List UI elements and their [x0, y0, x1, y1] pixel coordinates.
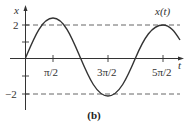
y-axis-label: x	[13, 4, 19, 16]
x-tick-label-2: 3π/2	[97, 66, 117, 78]
y-label-neg2: −2	[5, 88, 17, 100]
curve-label: x(t)	[154, 5, 171, 18]
x-tick-label-3: 5π/2	[152, 66, 172, 78]
figure-caption: (b)	[0, 109, 188, 121]
curve-x-of-t	[26, 18, 181, 96]
x-tick-label-1: π/2	[44, 66, 58, 78]
y-label-pos2: 2	[13, 19, 19, 31]
y-axis-arrow-icon	[24, 5, 28, 11]
x-axis-label: t	[178, 59, 182, 71]
